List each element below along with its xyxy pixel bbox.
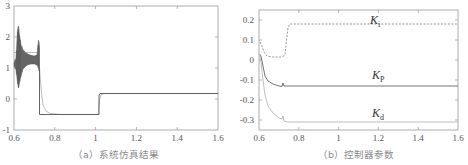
- chart-a-xtick: 0.6: [8, 133, 20, 143]
- chart-b-xtick: 1.6: [452, 133, 464, 143]
- chart-b: 0.2 0.1 0 -0.1 -0.2 -0.3 0.6 0.8 1 1.2 1…: [240, 10, 464, 160]
- chart-b-ki-line: [260, 24, 458, 57]
- figure: 3 2 1 0 -1 0.6 0.8 1 1.2 1.4 1.6: [0, 0, 468, 165]
- chart-b-kp-line: [260, 54, 459, 87]
- chart-b-ytick: -0.2: [240, 95, 254, 105]
- chart-a: 3 2 1 0 -1 0.6 0.8 1 1.2 1.4 1.6: [3, 1, 225, 160]
- chart-b-ytick: -0.3: [240, 115, 255, 125]
- chart-b-xtick: 0.8: [293, 133, 305, 143]
- chart-b-caption: （b）控制器参数: [318, 149, 394, 160]
- chart-b-xtick: 1.4: [413, 133, 425, 143]
- chart-a-xtick: 0.8: [49, 133, 61, 143]
- chart-a-xtick: 1.4: [172, 133, 184, 143]
- chart-a-oscillation: [14, 26, 40, 88]
- chart-b-frame: [259, 10, 458, 130]
- chart-a-caption: （a）系统仿真结果: [73, 149, 159, 160]
- chart-b-tick-marks: [259, 10, 458, 130]
- chart-b-xtick: 0.6: [253, 133, 265, 143]
- chart-a-ytick: 0: [6, 94, 11, 104]
- chart-a-xtick: 1: [93, 133, 98, 143]
- chart-a-xtick: 1.6: [212, 133, 224, 143]
- chart-b-kd-line: [260, 54, 459, 122]
- chart-a-reference-line: [14, 53, 218, 115]
- chart-a-response-line: [40, 70, 219, 115]
- chart-a-ytick: 1: [6, 63, 11, 73]
- chart-a-frame: [14, 6, 218, 130]
- chart-b-ki-label: Ki: [369, 13, 381, 29]
- chart-b-ytick: 0.2: [243, 15, 254, 25]
- chart-b-ytick: 0: [250, 55, 255, 65]
- chart-a-xticks-marks: [14, 6, 218, 130]
- chart-b-kp-label: KP: [371, 68, 385, 84]
- chart-b-kd-label: Kd: [371, 106, 384, 122]
- chart-b-xtick: 1.2: [373, 133, 384, 143]
- chart-b-ytick: -0.1: [240, 75, 254, 85]
- chart-b-ytick: 0.1: [243, 35, 254, 45]
- chart-a-ytick: 2: [6, 32, 11, 42]
- chart-a-xtick: 1.2: [131, 133, 142, 143]
- chart-b-xtick: 1: [336, 133, 341, 143]
- chart-a-ytick: 3: [6, 1, 11, 11]
